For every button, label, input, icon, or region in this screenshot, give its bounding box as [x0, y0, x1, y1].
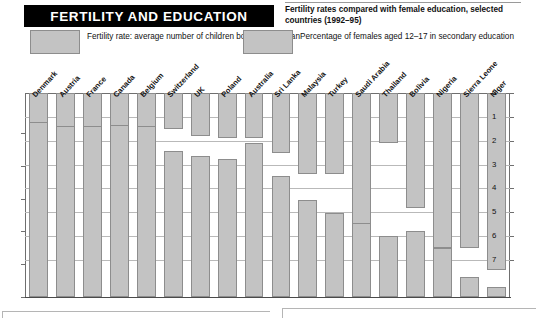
bar-education-saudi-arabia	[352, 223, 371, 297]
fertility-education-infographic: FERTILITY AND EDUCATION Fertility rates …	[0, 0, 536, 318]
y-tick-label-right-5: 5	[492, 207, 496, 216]
tick-right-6	[510, 236, 514, 237]
tick-left-40	[21, 231, 25, 232]
legend-item-education: Percentage of females aged 12–17 in seco…	[243, 30, 514, 54]
y-tick-label-right-1: 1	[492, 112, 496, 121]
bar-fertility-austria	[56, 93, 75, 129]
tick-right-1	[510, 117, 514, 118]
y-tick-label-right-7: 7	[492, 255, 496, 264]
bar-education-malaysia	[298, 200, 317, 297]
bar-fertility-sri-lanka	[272, 93, 291, 153]
bar-education-belgium	[137, 126, 156, 297]
header-divider	[285, 2, 521, 3]
y-tick-label-right-2: 2	[492, 136, 496, 145]
y-tick-label-right-4: 4	[492, 183, 496, 192]
bar-education-nigeria	[433, 248, 452, 297]
legend-label-education: Percentage of females aged 12–17 in seco…	[300, 30, 514, 43]
chart-plot-area	[25, 93, 510, 297]
footer-rule-left	[2, 311, 270, 312]
tick-right-0	[510, 93, 514, 94]
bar-education-niger	[487, 287, 506, 297]
page-title: FERTILITY AND EDUCATION	[24, 5, 274, 27]
bar-education-france	[83, 126, 102, 297]
tick-right-2	[510, 141, 514, 142]
bar-fertility-turkey	[325, 93, 344, 174]
tick-right-7	[510, 260, 514, 261]
bar-education-austria	[56, 126, 75, 297]
bar-fertility-belgium	[137, 93, 156, 131]
bar-fertility-bolivia	[406, 93, 425, 208]
bar-education-switzerland	[164, 151, 183, 297]
tick-right-3	[510, 165, 514, 166]
footer-rule-right	[282, 308, 536, 309]
bar-fertility-uk	[191, 93, 210, 136]
y-tick-label-right-3: 3	[492, 160, 496, 169]
tick-right-5	[510, 212, 514, 213]
tick-left-100	[21, 133, 25, 134]
bar-fertility-switzerland	[164, 93, 183, 129]
bar-education-uk	[191, 156, 210, 297]
legend-swatch-fertility	[30, 30, 80, 54]
subtitle: Fertility rates compared with female edu…	[285, 4, 521, 27]
bar-education-bolivia	[406, 231, 425, 297]
bar-fertility-niger	[487, 93, 506, 270]
bar-fertility-malaysia	[298, 93, 317, 174]
bar-education-canada	[110, 125, 129, 297]
bar-education-sri-lanka	[272, 176, 291, 297]
page-title-text: FERTILITY AND EDUCATION	[50, 9, 247, 24]
bar-fertility-poland	[218, 93, 237, 138]
tick-left-20	[21, 264, 25, 265]
bar-fertility-france	[83, 93, 102, 129]
bar-education-turkey	[325, 213, 344, 297]
tick-left-60	[21, 199, 25, 200]
bar-education-denmark	[29, 122, 48, 297]
bar-fertility-thailand	[379, 93, 398, 143]
bar-education-thailand	[379, 236, 398, 297]
footer-rule-left-cap	[2, 311, 3, 318]
bar-fertility-nigeria	[433, 93, 452, 248]
legend-swatch-education	[243, 30, 293, 54]
bar-education-poland	[218, 159, 237, 297]
tick-right-4	[510, 188, 514, 189]
bar-education-australia	[245, 143, 264, 297]
bar-fertility-sierra-leone	[460, 93, 479, 248]
y-tick-label-right-6: 6	[492, 231, 496, 240]
tick-left-80	[21, 166, 25, 167]
footer-rule-right-cap	[282, 308, 283, 318]
bar-education-sierra-leone	[460, 277, 479, 297]
bar-fertility-australia	[245, 93, 264, 138]
tick-left-0	[21, 297, 25, 298]
x-axis	[25, 297, 511, 298]
